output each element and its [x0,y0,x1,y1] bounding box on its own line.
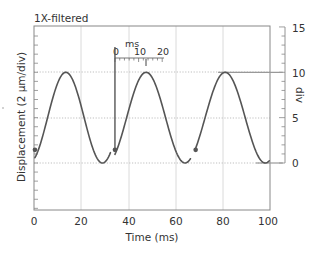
svg-text:0: 0 [113,46,119,57]
right-axis: 15 10 5 0 div [279,22,306,170]
svg-text:20: 20 [74,215,87,227]
markers [33,148,198,153]
left-axis-ticks [34,36,38,208]
y2-tick-0: 0 [292,157,299,169]
svg-text:20: 20 [157,46,169,57]
y2-tick-10: 10 [292,67,305,79]
y2-tick-5: 5 [292,112,299,124]
y2-tick-15: 15 [292,22,305,34]
svg-text:100: 100 [258,215,278,227]
svg-text:60: 60 [169,215,182,227]
x-axis-label: Time (ms) [125,231,179,243]
chart-title: 1X-filtered [34,12,88,24]
x-axis-ticks: 0 20 40 60 80 100 [31,215,278,227]
svg-text:40: 40 [122,215,135,227]
svg-text:10: 10 [134,46,146,57]
y-axis-label: Displacement (2 μm/div) [15,52,27,182]
chart: 15 10 5 0 div 0 20 40 60 80 100 Time (ms… [0,0,320,254]
y2-axis-label: div [294,87,306,103]
svg-text:80: 80 [216,215,229,227]
scale-bar: ms 0 10 20 [113,38,169,66]
svg-text:0: 0 [31,215,38,227]
reference-lines [115,47,283,163]
